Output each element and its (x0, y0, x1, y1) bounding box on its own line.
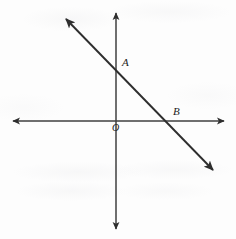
line-ab (66, 19, 213, 170)
origin-label: O (112, 123, 119, 133)
point-label-a: A (122, 57, 129, 68)
coordinate-plane-diagram (0, 0, 236, 239)
point-label-b: B (173, 106, 180, 117)
geometry-figure: A B O (0, 0, 236, 239)
